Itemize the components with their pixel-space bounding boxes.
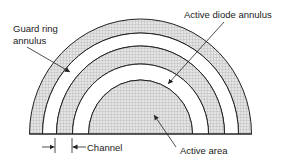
detector-diagram: Guard ring annulus Active diode annulus … — [0, 0, 281, 165]
channel-label: Channel — [87, 142, 122, 153]
active-diode-label: Active diode annulus — [184, 9, 272, 20]
guard-ring-label-line1: Guard ring — [13, 23, 58, 34]
guard-ring-label-line2: annulus — [13, 35, 47, 46]
active-area-label: Active area — [180, 145, 228, 156]
